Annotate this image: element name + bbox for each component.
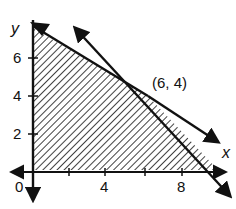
feasible-region (33, 28, 218, 170)
x-tick-label-8: 8 (177, 178, 185, 195)
y-tick-label-2: 2 (13, 125, 21, 142)
origin-label: 0 (15, 178, 23, 195)
linear-programming-graph: y x 6 4 2 0 4 8 (6, 4) (0, 0, 236, 209)
x-axis-label: x (221, 144, 231, 161)
y-axis-label: y (10, 20, 20, 37)
x-tick-label-4: 4 (100, 178, 108, 195)
y-tick-label-4: 4 (13, 87, 21, 104)
y-tick-label-6: 6 (13, 49, 21, 66)
point-label: (6, 4) (152, 74, 187, 91)
